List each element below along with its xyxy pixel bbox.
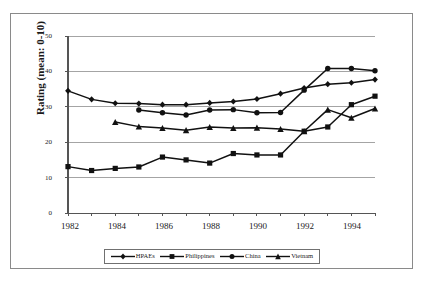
data-point-china-0 (136, 107, 141, 112)
data-point-hpaes-12 (348, 80, 354, 86)
data-point-china-9 (349, 66, 354, 71)
legend-item-hpaes[interactable]: HPAEs (111, 252, 155, 261)
data-point-china-2 (183, 112, 188, 117)
data-point-philippines-3 (136, 164, 141, 169)
chart-figure: Rating (mean: 0-10) 50 40 30 20 10 0 198… (0, 0, 422, 285)
data-point-philippines-7 (231, 151, 236, 156)
plot-area (0, 0, 422, 285)
data-point-philippines-9 (278, 152, 283, 157)
data-point-hpaes-6 (207, 100, 213, 106)
data-point-china-10 (372, 68, 377, 73)
data-point-philippines-13 (372, 94, 377, 99)
data-point-philippines-6 (207, 160, 212, 165)
data-point-philippines-1 (89, 168, 94, 173)
series-philippines (65, 94, 377, 174)
data-point-hpaes-2 (112, 100, 118, 106)
legend-item-vietnam[interactable]: Vietnam (266, 252, 313, 261)
data-point-philippines-0 (65, 164, 70, 169)
legend-swatch-circle-icon (220, 252, 244, 261)
data-point-china-3 (207, 107, 212, 112)
data-point-hpaes-8 (254, 96, 260, 102)
legend-swatch-triangle-icon (266, 252, 290, 261)
data-point-philippines-5 (183, 157, 188, 162)
data-point-hpaes-13 (372, 76, 378, 82)
data-point-hpaes-0 (65, 88, 71, 94)
legend-item-philippines[interactable]: Philippines (160, 252, 214, 261)
data-point-philippines-8 (254, 152, 259, 157)
data-point-china-8 (325, 66, 330, 71)
data-point-philippines-12 (349, 102, 354, 107)
legend-swatch-square-icon (160, 252, 184, 261)
legend-label-hpaes: HPAEs (136, 253, 155, 260)
data-point-china-1 (160, 110, 165, 115)
data-point-china-7 (301, 87, 306, 92)
data-point-china-6 (278, 110, 283, 115)
data-point-china-4 (231, 107, 236, 112)
series-china (136, 66, 378, 118)
series-hpaes (65, 76, 378, 107)
series-line-china (139, 69, 375, 115)
data-point-philippines-2 (113, 166, 118, 171)
data-point-philippines-11 (325, 124, 330, 129)
data-point-vietnam-9 (325, 107, 331, 113)
data-point-hpaes-7 (230, 98, 236, 104)
legend-item-china[interactable]: China (220, 252, 261, 261)
series-vietnam (112, 105, 378, 134)
legend-label-china: China (245, 253, 261, 260)
data-point-philippines-4 (160, 154, 165, 159)
series-line-philippines (68, 96, 375, 170)
data-point-hpaes-1 (89, 96, 95, 102)
data-point-china-5 (254, 110, 259, 115)
data-point-hpaes-11 (325, 81, 331, 87)
legend-swatch-diamond-icon (111, 252, 135, 261)
legend-label-vietnam: Vietnam (291, 253, 313, 260)
chart-legend: HPAEs Philippines China Vietnam (104, 249, 320, 264)
legend-label-philippines: Philippines (185, 253, 214, 260)
data-series-layer (65, 66, 378, 173)
data-point-hpaes-9 (278, 91, 284, 97)
data-point-hpaes-3 (136, 101, 142, 107)
